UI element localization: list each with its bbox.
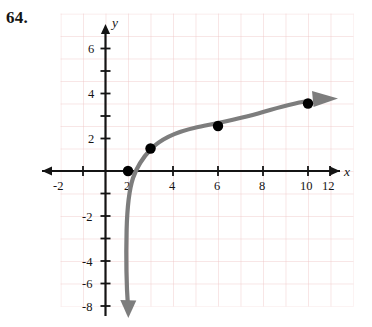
y-tick-label: -4 xyxy=(82,255,93,269)
y-tick-label: -6 xyxy=(82,277,92,291)
x-tick-label: 10 xyxy=(300,179,313,193)
data-point xyxy=(145,143,155,153)
y-tick-label: 4 xyxy=(88,87,95,101)
data-point xyxy=(303,98,313,108)
y-tick-label: 2 xyxy=(88,132,94,146)
x-tick-label: 8 xyxy=(259,179,265,193)
y-tick-label: 6 xyxy=(88,42,94,56)
x-tick-label: 12 xyxy=(322,179,335,193)
y-tick-label: -2 xyxy=(82,210,92,224)
y-tick-label: -8 xyxy=(82,300,92,314)
coordinate-plane: y x -2 2 4 6 8 10 12 6 4 2 -2 -4 -6 -8 xyxy=(0,0,372,327)
x-tick-label: 4 xyxy=(169,179,176,193)
data-point xyxy=(123,166,133,176)
data-point xyxy=(213,121,223,131)
graph-figure: y x -2 2 4 6 8 10 12 6 4 2 -2 -4 -6 -8 xyxy=(0,0,372,327)
x-tick-label: -2 xyxy=(53,179,63,193)
x-tick-label: 6 xyxy=(214,179,220,193)
y-axis-label: y xyxy=(110,15,118,30)
x-axis-label: x xyxy=(343,164,350,179)
